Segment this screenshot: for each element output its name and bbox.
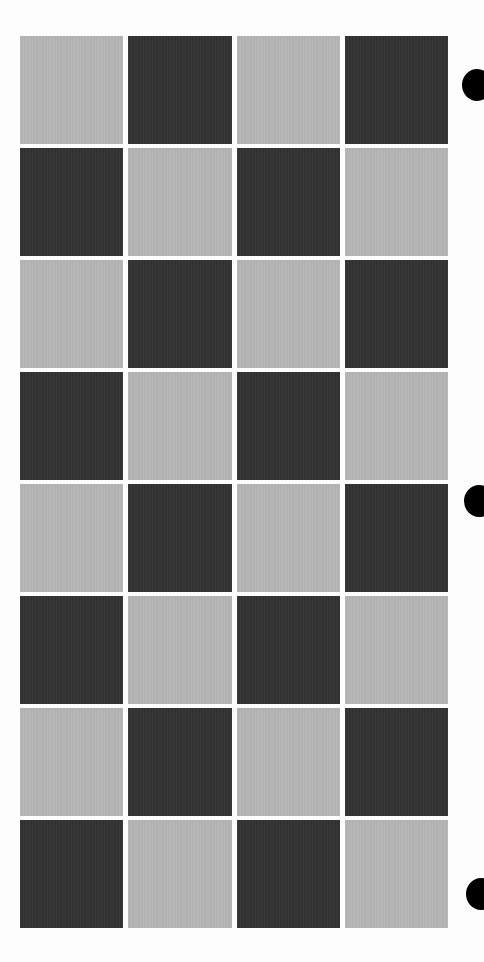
board-cell-r3-c3-light [237, 260, 340, 368]
board-cell-r6-c3-dark [237, 596, 340, 704]
board-cell-r5-c4-dark [345, 484, 448, 592]
board-cell-r2-c3-dark [237, 148, 340, 256]
board-cell-r1-c1-light [20, 36, 123, 144]
board-cell-r2-c2-light [128, 148, 231, 256]
board-cell-r5-c1-light [20, 484, 123, 592]
board-cell-r8-c2-light [128, 820, 231, 928]
board-cell-r6-c1-dark [20, 596, 123, 704]
board-cell-r1-c4-dark [345, 36, 448, 144]
board-cell-r6-c4-light [345, 596, 448, 704]
registration-mark-top-dot-icon [462, 69, 484, 101]
board-cell-r4-c1-dark [20, 372, 123, 480]
board-cell-r4-c4-light [345, 372, 448, 480]
board-cell-r8-c1-dark [20, 820, 123, 928]
checkerboard-pattern [20, 36, 448, 928]
board-cell-r8-c3-dark [237, 820, 340, 928]
board-cell-r3-c4-dark [345, 260, 448, 368]
board-cell-r7-c2-dark [128, 708, 231, 816]
board-cell-r2-c1-dark [20, 148, 123, 256]
board-cell-r6-c2-light [128, 596, 231, 704]
board-cell-r1-c3-light [237, 36, 340, 144]
scanned-page [0, 0, 484, 962]
board-cell-r7-c3-light [237, 708, 340, 816]
board-cell-r5-c3-light [237, 484, 340, 592]
board-cell-r5-c2-dark [128, 484, 231, 592]
board-cell-r3-c2-dark [128, 260, 231, 368]
board-cell-r7-c4-dark [345, 708, 448, 816]
board-cell-r1-c2-dark [128, 36, 231, 144]
board-cell-r8-c4-light [345, 820, 448, 928]
registration-mark-middle-dot-icon [464, 485, 484, 517]
board-cell-r4-c3-dark [237, 372, 340, 480]
board-cell-r2-c4-light [345, 148, 448, 256]
board-cell-r4-c2-light [128, 372, 231, 480]
board-cell-r3-c1-light [20, 260, 123, 368]
board-cell-r7-c1-light [20, 708, 123, 816]
registration-mark-bottom-dot-icon [466, 878, 484, 910]
